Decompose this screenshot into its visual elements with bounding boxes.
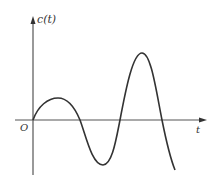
origin-label: O xyxy=(20,122,28,133)
response-curve-diagram: c(t) O t xyxy=(0,0,215,182)
x-axis-arrow-icon xyxy=(199,118,207,123)
y-axis-arrow-icon xyxy=(31,16,36,24)
y-axis-label: c(t) xyxy=(37,13,56,26)
response-curve xyxy=(33,53,175,170)
x-axis-label: t xyxy=(196,124,201,135)
